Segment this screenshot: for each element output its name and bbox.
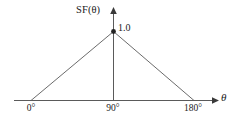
x-tick-label-90: 90° xyxy=(99,104,127,114)
y-axis-arrowhead xyxy=(110,7,117,14)
x-tick-label-0: 0° xyxy=(18,104,44,114)
scaling-function-chart: SF(θ) 1.0 0° 90° 180° θ xyxy=(0,0,237,127)
peak-marker-dot xyxy=(111,29,116,34)
y-axis-label: SF(θ) xyxy=(76,5,100,16)
series-falling-segment xyxy=(114,32,195,101)
peak-value-label: 1.0 xyxy=(118,23,131,33)
series-rising-segment xyxy=(31,32,114,101)
x-tick-label-180: 180° xyxy=(177,104,209,114)
x-axis-arrowhead xyxy=(212,97,219,104)
x-axis-label: θ xyxy=(221,92,226,103)
